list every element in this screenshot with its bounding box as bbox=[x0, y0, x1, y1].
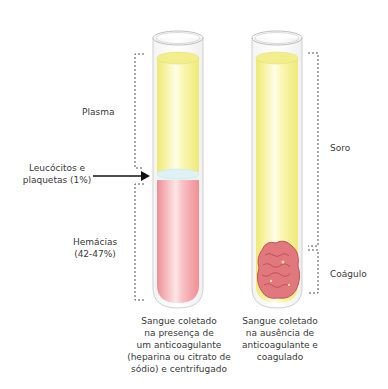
caption-line: coagulado bbox=[240, 351, 320, 363]
caption-line: (heparina ou citrato de bbox=[122, 351, 236, 363]
clot-label: Coágulo bbox=[330, 268, 367, 280]
right-brackets bbox=[308, 53, 318, 293]
rbc-label-line2: (42-47%) bbox=[70, 248, 120, 260]
arrow-icon bbox=[93, 171, 150, 181]
caption-line: anticoagulante e bbox=[240, 339, 320, 351]
right-tube-caption: Sangue coletado na ausência de anticoagu… bbox=[240, 315, 320, 363]
rbc-label: Hemácias (42-47%) bbox=[70, 236, 120, 260]
right-tube bbox=[252, 31, 302, 308]
clot bbox=[257, 241, 299, 298]
buffy-coat-label-line2: plaquetas (1%) bbox=[22, 174, 92, 186]
caption-line: Sangue coletado bbox=[128, 315, 230, 327]
buffy-coat-label: Leucócitos e plaquetas (1%) bbox=[22, 162, 92, 186]
plasma-label: Plasma bbox=[82, 106, 114, 118]
buffy-coat-label-line1: Leucócitos e bbox=[22, 162, 92, 174]
serum-label: Soro bbox=[330, 142, 350, 154]
left-tube-caption: Sangue coletado na presença de um antico… bbox=[128, 315, 230, 375]
caption-line: Sangue coletado bbox=[240, 315, 320, 327]
caption-line: na ausência de bbox=[240, 327, 320, 339]
caption-line: sódio) e centrifugado bbox=[128, 363, 230, 375]
caption-line: na presença de bbox=[128, 327, 230, 339]
caption-line: um anticoagulante bbox=[128, 339, 230, 351]
left-tube bbox=[153, 31, 203, 308]
rbc-label-line1: Hemácias bbox=[70, 236, 120, 248]
